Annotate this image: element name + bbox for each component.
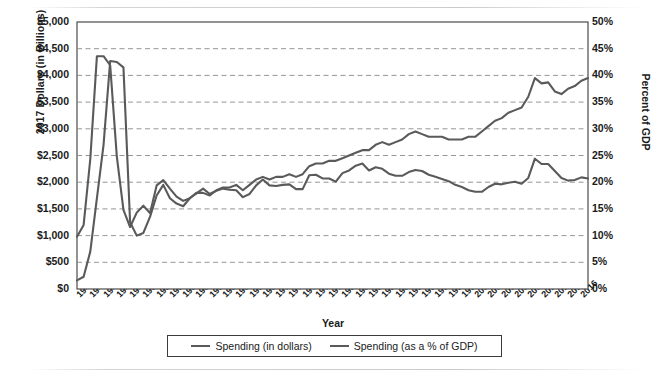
chart-legend: Spending (in dollars) Spending (as a % o… [167,335,502,357]
plot-area [0,0,666,379]
legend-swatch-icon [191,345,210,347]
legend-item-spending-dollars: Spending (in dollars) [191,340,311,352]
legend-item-spending-pct-gdp: Spending (as a % of GDP) [330,340,478,352]
legend-swatch-icon [330,345,349,347]
legend-label: Spending (as a % of GDP) [354,340,478,352]
chart-container: 2017 Dollars (in Billions) Percent of GD… [0,0,666,379]
legend-label: Spending (in dollars) [215,340,311,352]
